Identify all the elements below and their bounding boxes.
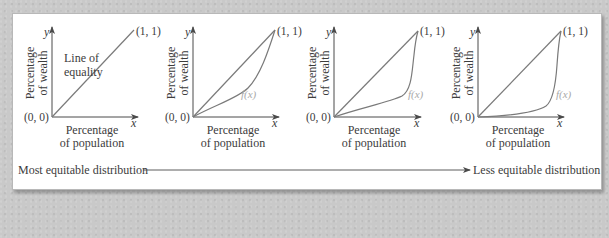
y-var-label: y bbox=[184, 25, 191, 39]
y-title-line1: Percentage bbox=[305, 47, 319, 100]
plot-1-line-of-equality: y x (1, 1) (0, 0) Line of equality Perce… bbox=[23, 25, 161, 150]
end-point-label: (1, 1) bbox=[136, 25, 161, 38]
curve-label-fx: f(x) bbox=[408, 88, 424, 101]
x-title-line1: Percentage bbox=[348, 123, 401, 137]
x-title-line1: Percentage bbox=[492, 123, 545, 137]
origin-label: (0, 0) bbox=[24, 111, 49, 124]
plot-3-moderate-inequality: y x (1, 1) (0, 0) f(x) Percentage of wea… bbox=[305, 25, 445, 150]
x-var-label: x bbox=[271, 116, 278, 130]
x-title-line2: of population bbox=[342, 136, 406, 150]
end-point-label: (1, 1) bbox=[277, 25, 302, 38]
x-var-label: x bbox=[413, 116, 420, 130]
equality-line bbox=[193, 30, 275, 117]
x-title-line2: of population bbox=[201, 136, 265, 150]
origin-label: (0, 0) bbox=[450, 111, 475, 124]
curve-label-fx: f(x) bbox=[241, 88, 257, 101]
x-var-label: x bbox=[130, 116, 137, 130]
y-title-line2: of wealth bbox=[177, 51, 191, 96]
most-equitable-label: Most equitable distribution bbox=[18, 163, 148, 177]
y-title-line1: Percentage bbox=[164, 47, 178, 100]
y-title-line2: of wealth bbox=[462, 51, 476, 96]
end-point-label: (1, 1) bbox=[420, 25, 445, 38]
y-var-label: y bbox=[469, 25, 476, 39]
y-title-line2: of wealth bbox=[36, 51, 50, 96]
plot-2-mild-inequality: y x (1, 1) (0, 0) f(x) Percentage of wea… bbox=[164, 25, 302, 150]
equity-scale: Most equitable distribution Less equitab… bbox=[18, 163, 600, 177]
origin-label: (0, 0) bbox=[306, 111, 331, 124]
lorenz-curves-figure: y x (1, 1) (0, 0) Line of equality Perce… bbox=[0, 0, 609, 198]
x-title-line1: Percentage bbox=[207, 123, 260, 137]
less-equitable-label: Less equitable distribution bbox=[473, 163, 600, 177]
y-title-line1: Percentage bbox=[449, 47, 463, 100]
x-var-label: x bbox=[556, 116, 563, 130]
y-title-line1: Percentage bbox=[23, 47, 37, 100]
origin-label: (0, 0) bbox=[165, 111, 190, 124]
end-point-label: (1, 1) bbox=[563, 25, 588, 38]
x-title-line1: Percentage bbox=[66, 123, 119, 137]
annotation-equality: equality bbox=[64, 65, 103, 79]
x-title-line2: of population bbox=[486, 136, 550, 150]
y-var-label: y bbox=[43, 25, 50, 39]
plot-4-high-inequality: y x (1, 1) (0, 0) f(x) Percentage of wea… bbox=[449, 25, 588, 150]
curve-label-fx: f(x) bbox=[556, 88, 572, 101]
y-var-label: y bbox=[325, 25, 332, 39]
annotation-line-of: Line of bbox=[64, 51, 99, 65]
y-title-line2: of wealth bbox=[318, 51, 332, 96]
x-title-line2: of population bbox=[60, 136, 124, 150]
